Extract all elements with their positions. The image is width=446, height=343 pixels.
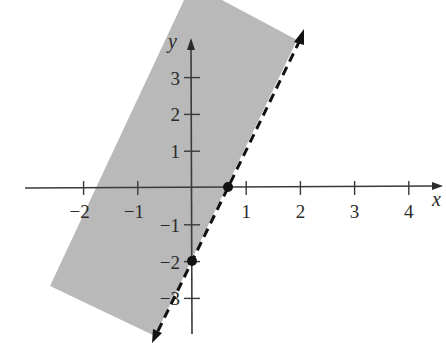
x-tick-label: 4 xyxy=(404,201,414,222)
inequality-graph: −2−11234 x −3−2−1123 y xyxy=(0,0,446,343)
x-tick-label: 3 xyxy=(350,201,360,222)
x-intercept-point xyxy=(223,182,233,192)
x-tick-label: 1 xyxy=(241,201,251,222)
y-intercept-point xyxy=(187,256,197,266)
x-tick-label: −1 xyxy=(124,201,144,222)
x-tick-label: −2 xyxy=(69,201,89,222)
y-tick-label: −2 xyxy=(160,252,180,273)
y-tick-label: −3 xyxy=(160,288,180,309)
y-tick-label: 3 xyxy=(171,68,181,89)
y-tick-label: 2 xyxy=(171,104,181,125)
y-tick-label: −1 xyxy=(160,215,180,236)
y-axis-label: y xyxy=(166,30,177,53)
boundary-arrow-down-icon xyxy=(152,329,162,343)
x-tick-label: 2 xyxy=(296,201,306,222)
y-tick-label: 1 xyxy=(171,141,181,162)
x-axis: −2−11234 x xyxy=(25,181,443,222)
x-axis-label: x xyxy=(431,188,441,210)
